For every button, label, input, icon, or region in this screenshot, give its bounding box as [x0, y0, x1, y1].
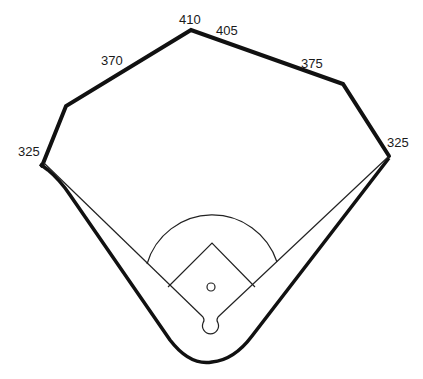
distance-left-center: 370	[101, 54, 123, 67]
distance-right-center: 375	[301, 57, 323, 70]
distance-right-field-line: 325	[387, 136, 409, 149]
distance-center-right: 405	[216, 24, 238, 37]
home-plate-circle	[203, 317, 219, 334]
left-foul-line	[44, 163, 203, 317]
baseball-field-diagram	[0, 0, 423, 379]
pitchers-mound	[207, 283, 215, 291]
base-paths	[168, 243, 255, 287]
infield-arc	[147, 215, 277, 264]
distance-center-left: 410	[179, 13, 201, 26]
right-foul-line	[218, 157, 388, 317]
outfield-fence	[42, 30, 389, 166]
distance-left-field-line: 325	[18, 145, 40, 158]
